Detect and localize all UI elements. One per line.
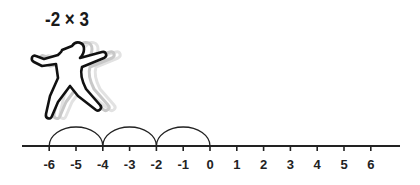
tick-label: 1 [233, 157, 240, 172]
tick-label: -2 [151, 157, 163, 172]
tick-label: 6 [367, 157, 374, 172]
tick-label: 0 [206, 157, 213, 172]
jump-arc-neg4-to-neg6 [49, 127, 103, 146]
tick-label: -3 [124, 157, 136, 172]
tick-label: 4 [314, 157, 322, 172]
number-line-labels: -6-5-4-3-2-10123456 [43, 157, 374, 172]
tick-label: -4 [97, 157, 109, 172]
jumping-person-icon [32, 42, 120, 118]
tick-label: 3 [287, 157, 294, 172]
tick-label: -1 [177, 157, 189, 172]
jump-arc-0-to-neg2 [156, 127, 210, 146]
tick-label: -5 [70, 157, 82, 172]
jump-arc-neg2-to-neg4 [103, 127, 157, 146]
number-line-diagram: -6-5-4-3-2-10123456 [0, 0, 420, 185]
tick-label: -6 [43, 157, 55, 172]
tick-label: 2 [260, 157, 267, 172]
jump-arcs [49, 127, 210, 146]
tick-label: 5 [340, 157, 347, 172]
